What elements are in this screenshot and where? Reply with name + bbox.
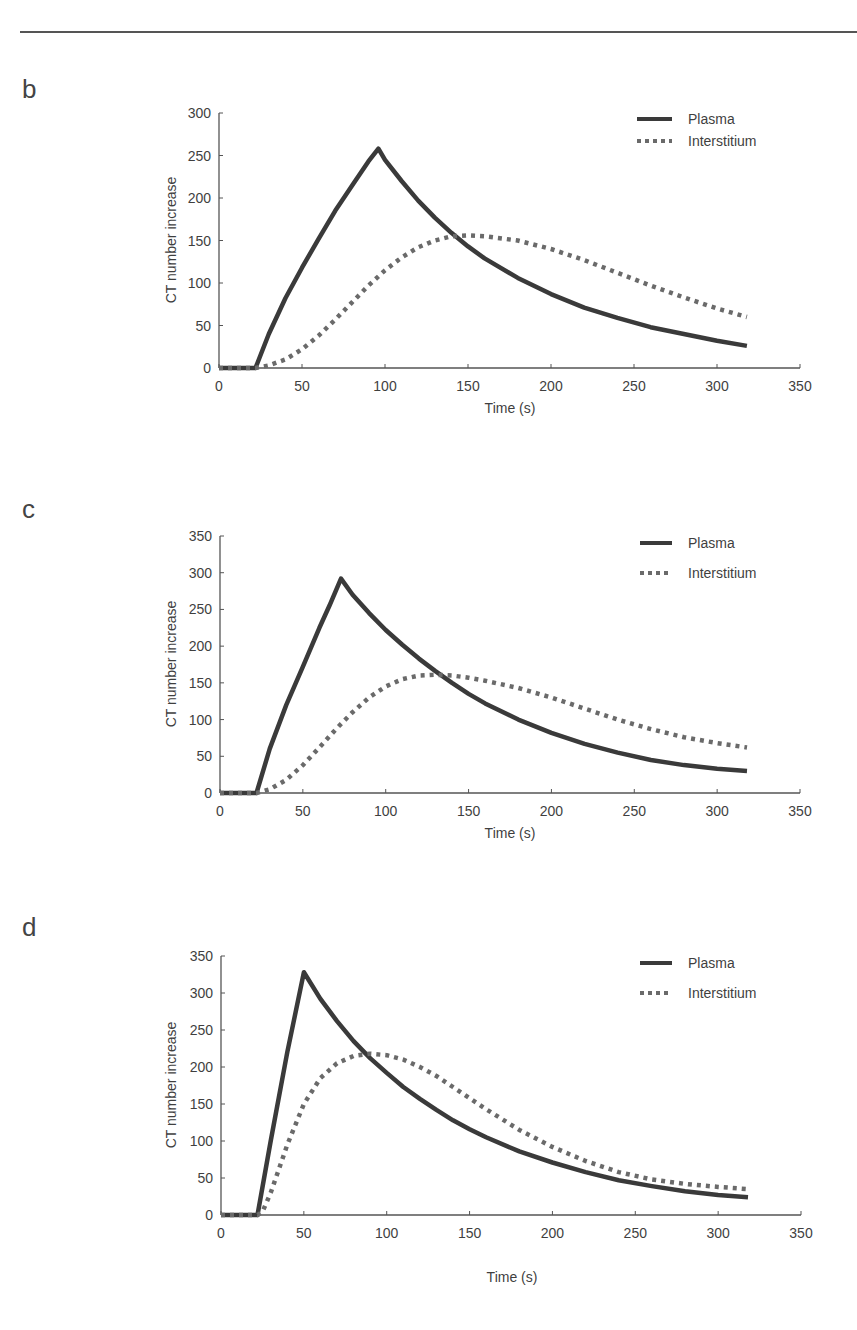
y-tick-label: 200	[190, 1059, 214, 1075]
x-tick-label: 0	[217, 1225, 225, 1241]
chart-panel-d: 0501001502002503003500501001502002503003…	[0, 0, 857, 1330]
x-axis-title: Time (s)	[487, 1269, 538, 1285]
y-tick-label: 50	[197, 1170, 213, 1186]
y-tick-label: 300	[190, 985, 214, 1001]
legend: Plasma Interstitium	[640, 955, 756, 1001]
y-tick-label: 350	[190, 948, 214, 964]
x-tick-label: 100	[375, 1225, 399, 1241]
x-tick-label: 250	[624, 1225, 648, 1241]
y-tick-label: 250	[190, 1022, 214, 1038]
x-tick-label: 300	[706, 1225, 730, 1241]
x-tick-label: 350	[789, 1225, 813, 1241]
plasma-series-line	[221, 972, 748, 1215]
legend-plasma-label: Plasma	[688, 955, 735, 971]
y-axis-title: CT number increase	[163, 1022, 179, 1149]
x-tick-label: 200	[541, 1225, 565, 1241]
y-tick-label: 100	[190, 1133, 214, 1149]
y-tick-label: 150	[190, 1096, 214, 1112]
y-tick-label: 0	[205, 1207, 213, 1223]
x-tick-label: 150	[458, 1225, 482, 1241]
x-tick-label: 50	[296, 1225, 312, 1241]
legend-interstitium-label: Interstitium	[688, 985, 756, 1001]
